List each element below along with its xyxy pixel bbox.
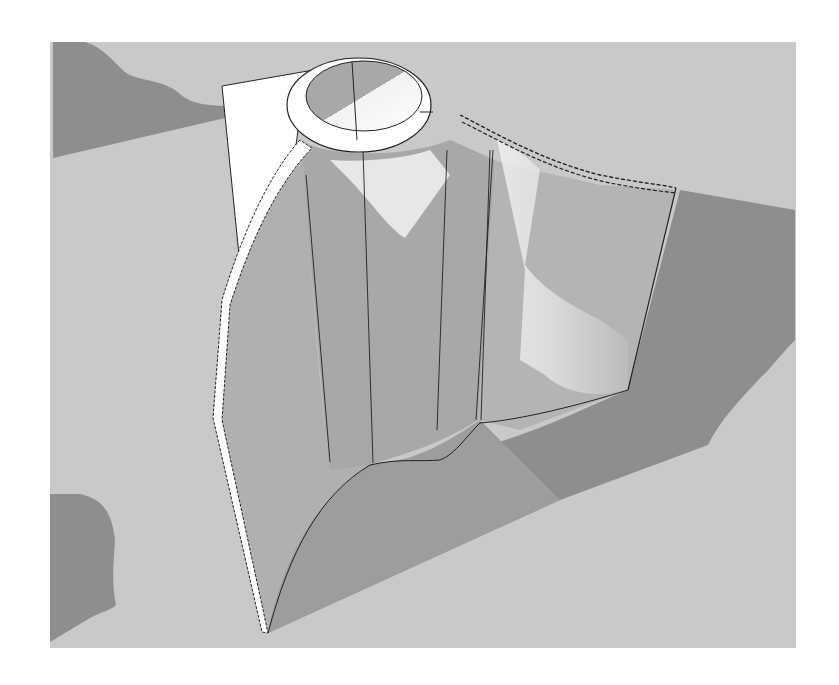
ring-inner <box>306 61 422 131</box>
render-scene <box>0 0 839 685</box>
